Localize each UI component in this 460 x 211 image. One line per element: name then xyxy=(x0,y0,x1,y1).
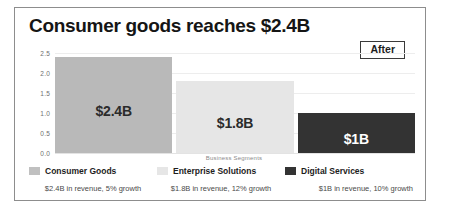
plot-area: 2.5 2.0 1.5 1.0 0.5 0.0 $2.4B $1.8B $1B xyxy=(23,53,419,153)
y-axis: 2.5 2.0 1.5 1.0 0.5 0.0 xyxy=(23,53,53,153)
footnote-row: $2.4B in revenue, 5% growth $1.8B in rev… xyxy=(29,184,413,193)
y-tick-label: 2.5 xyxy=(40,50,50,57)
legend-item-label: Consumer Goods xyxy=(45,166,116,176)
footnote-enterprise-solutions: $1.8B in revenue, 12% growth xyxy=(157,184,285,193)
bar-enterprise-solutions[interactable]: $1.8B xyxy=(176,81,293,153)
chart-card: Consumer goods reaches $2.4B After 2.5 2… xyxy=(14,7,426,201)
x-axis-label: Business Segments xyxy=(47,155,421,161)
legend-item-label: Digital Services xyxy=(301,166,364,176)
bar-digital-services[interactable]: $1B xyxy=(298,113,415,153)
legend-item-digital-services[interactable]: Digital Services xyxy=(285,166,413,176)
legend-swatch-icon xyxy=(157,167,168,175)
bar-value-label: $2.4B xyxy=(95,103,131,119)
bar-value-label: $1B xyxy=(344,131,369,147)
footnote-digital-services: $1B in revenue, 10% growth xyxy=(285,184,413,193)
y-tick-label: 1.5 xyxy=(40,90,50,97)
y-tick-label: 0.5 xyxy=(40,130,50,137)
legend: Consumer Goods Enterprise Solutions Digi… xyxy=(29,166,413,176)
bar-value-label: $1.8B xyxy=(217,115,253,131)
legend-swatch-icon xyxy=(285,167,296,175)
legend-swatch-icon xyxy=(29,167,40,175)
footnote-consumer-goods: $2.4B in revenue, 5% growth xyxy=(29,184,157,193)
legend-item-consumer-goods[interactable]: Consumer Goods xyxy=(29,166,157,176)
gridline-baseline xyxy=(55,153,415,154)
bar-series: $2.4B $1.8B $1B xyxy=(55,53,415,153)
y-tick-label: 1.0 xyxy=(40,110,50,117)
legend-item-label: Enterprise Solutions xyxy=(173,166,256,176)
legend-item-enterprise-solutions[interactable]: Enterprise Solutions xyxy=(157,166,285,176)
bar-consumer-goods[interactable]: $2.4B xyxy=(55,57,172,153)
page-title: Consumer goods reaches $2.4B xyxy=(29,15,310,37)
y-tick-label: 2.0 xyxy=(40,70,50,77)
